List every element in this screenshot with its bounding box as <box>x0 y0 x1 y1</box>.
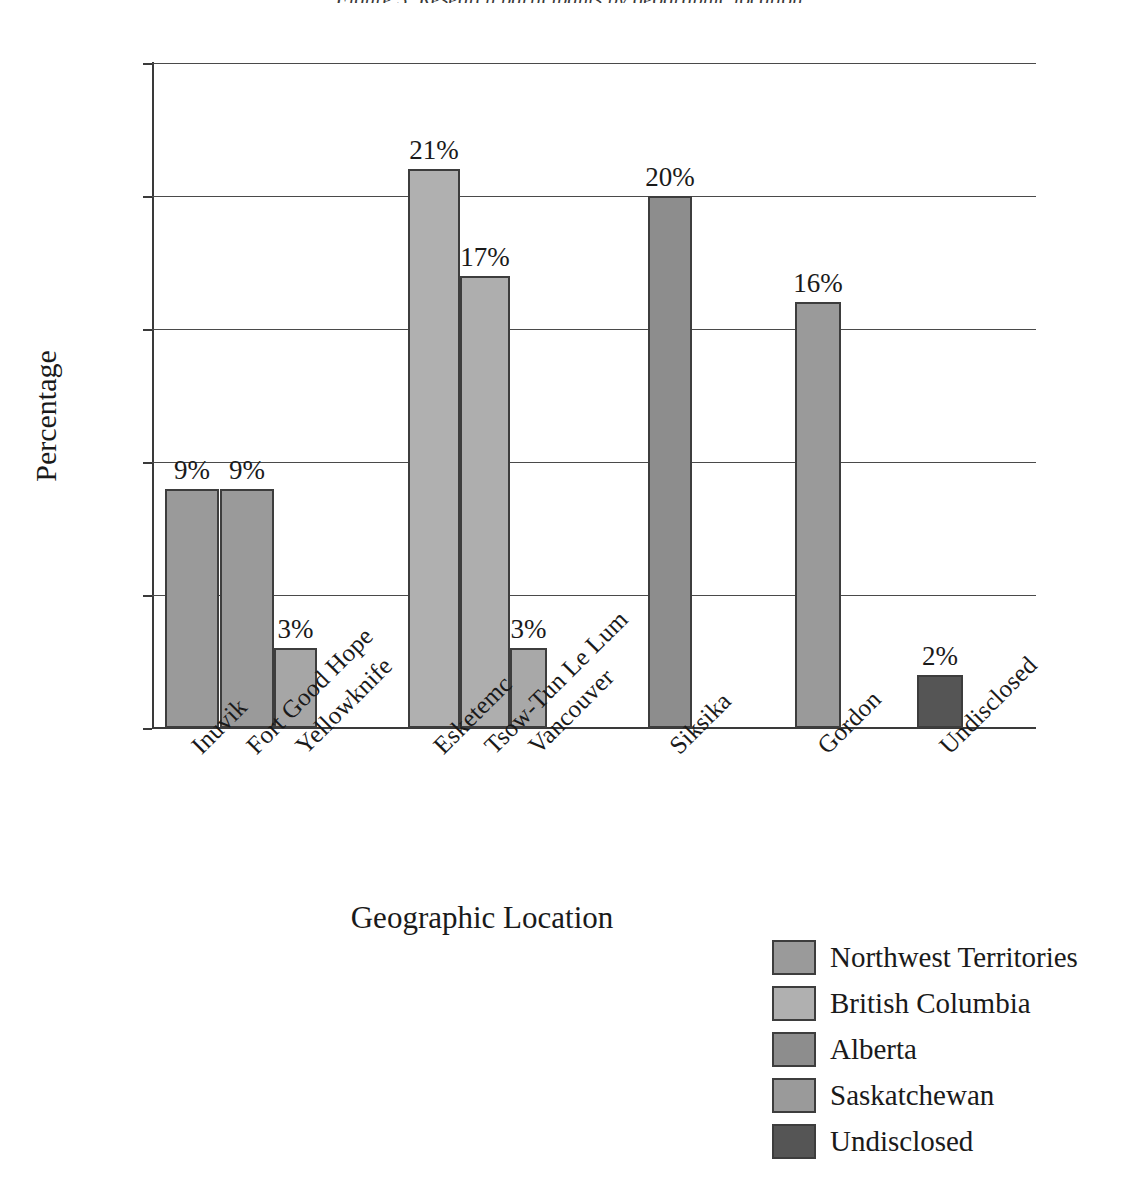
bar <box>220 489 274 728</box>
figure-caption-fragment: Figure 3. Research participants by geogr… <box>0 0 1138 3</box>
bar-value-label: 17% <box>442 244 528 271</box>
legend-swatch <box>772 1032 816 1067</box>
y-tick-mark <box>143 63 152 65</box>
bar-value-label: 3% <box>256 616 335 643</box>
bar <box>165 489 219 728</box>
bar-value-label: 16% <box>777 270 859 297</box>
legend-swatch <box>772 1078 816 1113</box>
legend-item: British Columbia <box>772 980 1132 1026</box>
x-axis-title: Geographic Location <box>152 900 812 936</box>
y-tick-mark <box>143 329 152 331</box>
legend-item: Undisclosed <box>772 1118 1132 1164</box>
legend-label: Northwest Territories <box>830 943 1078 972</box>
bar-value-label: 2% <box>899 643 981 670</box>
legend-item: Alberta <box>772 1026 1132 1072</box>
legend-item: Saskatchewan <box>772 1072 1132 1118</box>
bar <box>648 196 692 728</box>
legend-label: Undisclosed <box>830 1127 973 1156</box>
bar-value-label: 20% <box>630 164 710 191</box>
legend-label: Alberta <box>830 1035 917 1064</box>
y-tick-mark <box>143 728 152 730</box>
bar-value-label: 3% <box>492 616 565 643</box>
bar <box>460 276 510 728</box>
gridline <box>152 595 1036 596</box>
gridline <box>152 329 1036 330</box>
legend: Northwest TerritoriesBritish ColumbiaAlb… <box>772 934 1132 1164</box>
legend-label: British Columbia <box>830 989 1031 1018</box>
bar-value-label: 9% <box>202 457 292 484</box>
bar-value-label: 21% <box>390 137 478 164</box>
legend-label: Saskatchewan <box>830 1081 994 1110</box>
bar <box>795 302 841 728</box>
legend-item: Northwest Territories <box>772 934 1132 980</box>
y-tick-mark <box>143 595 152 597</box>
legend-swatch <box>772 1124 816 1159</box>
y-axis-title: Percentage <box>29 296 63 536</box>
legend-swatch <box>772 940 816 975</box>
legend-swatch <box>772 986 816 1021</box>
gridline <box>152 63 1036 64</box>
gridline <box>152 196 1036 197</box>
y-tick-mark <box>143 196 152 198</box>
